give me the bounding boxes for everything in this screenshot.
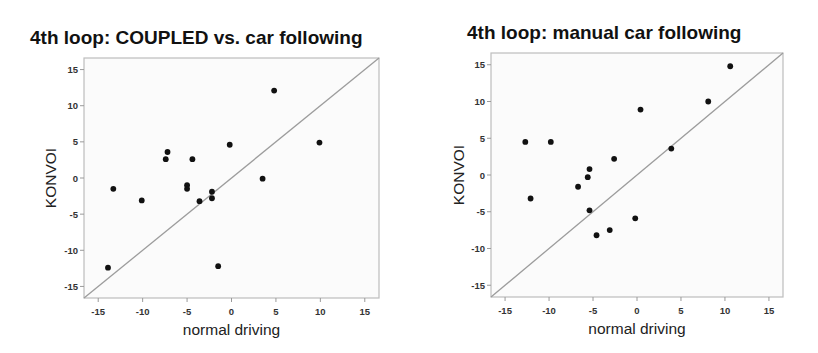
data-point — [139, 198, 145, 204]
x-tick-label: -5 — [183, 306, 192, 317]
y-tick-label: 15 — [474, 59, 485, 70]
x-tick-label: -15 — [91, 306, 105, 317]
data-point — [110, 186, 116, 192]
x-tick-label: -15 — [498, 305, 512, 316]
y-tick-label: -15 — [471, 280, 485, 291]
data-point — [548, 139, 554, 145]
data-point — [271, 88, 277, 94]
y-tick-label: -10 — [64, 245, 78, 256]
data-point — [163, 156, 169, 162]
x-tick-label: 15 — [764, 305, 775, 316]
data-point — [528, 196, 534, 202]
y-tick-label: -10 — [471, 243, 485, 254]
x-tick-label: 5 — [273, 306, 279, 317]
y-tick-label: 10 — [67, 100, 78, 111]
data-point — [317, 140, 323, 146]
x-axis-label: normal driving — [588, 320, 685, 337]
x-tick-label: -5 — [589, 305, 598, 316]
x-tick-label: 10 — [720, 305, 731, 316]
x-tick-label: 15 — [359, 306, 370, 317]
x-tick-label: 0 — [634, 305, 639, 316]
y-axis-label: KONVOI — [450, 145, 467, 205]
y-tick-label: -15 — [64, 281, 78, 292]
data-point — [184, 186, 190, 192]
data-point — [668, 146, 674, 152]
x-tick-label: 5 — [678, 305, 684, 316]
y-tick-label: 15 — [67, 64, 78, 75]
data-point — [575, 184, 581, 190]
data-point — [165, 149, 171, 155]
scatter-plot-coupled: -15-10-5051015-15-10-5051015normal drivi… — [0, 0, 410, 353]
x-axis-label: normal driving — [183, 321, 280, 338]
x-tick-label: 0 — [229, 306, 234, 317]
data-point — [705, 99, 711, 105]
scatter-plot-manual: -15-10-5051015-15-10-5051015normal drivi… — [410, 0, 818, 353]
data-point — [587, 207, 593, 213]
x-tick-label: -10 — [136, 306, 150, 317]
data-point — [638, 107, 644, 113]
data-point — [209, 189, 215, 195]
y-tick-label: -5 — [477, 206, 486, 217]
data-point — [587, 166, 593, 172]
y-tick-label: -5 — [70, 209, 79, 220]
y-axis-label: KONVOI — [42, 148, 59, 208]
data-point — [260, 176, 266, 182]
data-point — [611, 156, 617, 162]
data-point — [522, 139, 528, 145]
data-point — [227, 142, 233, 148]
data-point — [585, 174, 591, 180]
data-point — [632, 215, 638, 221]
y-tick-label: 5 — [480, 133, 486, 144]
data-point — [209, 195, 215, 201]
x-tick-label: -10 — [542, 305, 556, 316]
y-tick-label: 10 — [474, 96, 485, 107]
scatter-panel-coupled: 4th loop: COUPLED vs. car following -15-… — [0, 0, 410, 353]
data-point — [190, 156, 196, 162]
data-point — [215, 263, 221, 269]
y-tick-label: 5 — [73, 136, 79, 147]
data-point — [594, 232, 600, 238]
data-point — [607, 227, 613, 233]
data-point — [105, 265, 111, 271]
scatter-panel-manual: 4th loop: manual car following -15-10-50… — [410, 0, 818, 353]
y-tick-label: 0 — [480, 170, 485, 181]
data-point — [197, 198, 203, 204]
data-point — [727, 63, 733, 69]
x-tick-label: 10 — [315, 306, 326, 317]
y-tick-label: 0 — [73, 173, 78, 184]
